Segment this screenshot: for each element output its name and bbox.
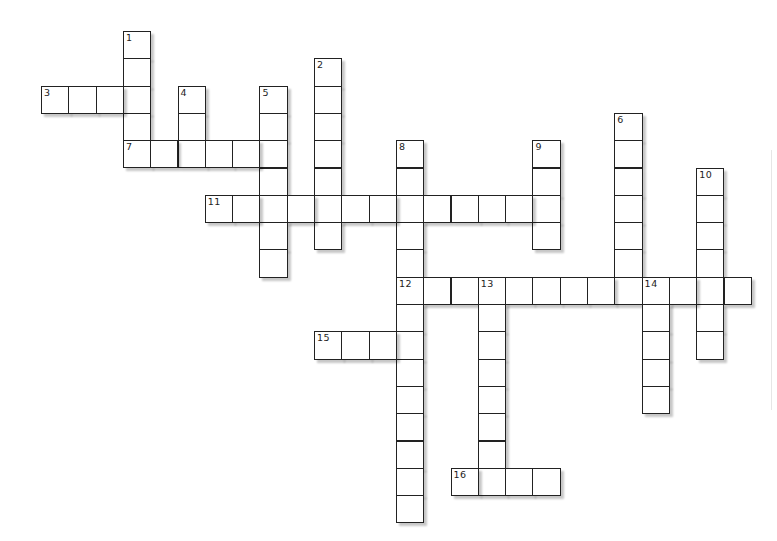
crossword-cell[interactable]: 16 (451, 468, 479, 496)
crossword-cell[interactable] (696, 222, 724, 250)
crossword-cell[interactable] (259, 140, 287, 168)
crossword-cell[interactable] (560, 277, 588, 305)
crossword-cell[interactable] (396, 413, 424, 441)
crossword-cell[interactable] (724, 277, 752, 305)
crossword-cell[interactable] (478, 413, 506, 441)
crossword-cell[interactable] (396, 441, 424, 469)
crossword-cell[interactable] (423, 277, 451, 305)
crossword-cell[interactable] (396, 304, 424, 332)
crossword-cell[interactable] (341, 195, 369, 223)
crossword-cell[interactable]: 10 (696, 168, 724, 196)
crossword-cell[interactable] (314, 113, 342, 141)
crossword-cell[interactable] (642, 331, 670, 359)
crossword-cell[interactable] (369, 331, 397, 359)
crossword-cell[interactable] (478, 386, 506, 414)
crossword-cell[interactable]: 11 (205, 195, 233, 223)
clue-number: 5 (262, 87, 269, 98)
crossword-cell[interactable] (478, 331, 506, 359)
crossword-cell[interactable] (532, 468, 560, 496)
crossword-cell[interactable]: 5 (259, 86, 287, 114)
crossword-cell[interactable] (259, 222, 287, 250)
crossword-cell[interactable] (341, 331, 369, 359)
clue-number: 11 (208, 196, 221, 207)
crossword-cell[interactable] (478, 441, 506, 469)
crossword-cell[interactable] (587, 277, 615, 305)
crossword-cell[interactable] (396, 331, 424, 359)
crossword-cell[interactable] (478, 195, 506, 223)
clue-number: 14 (645, 278, 658, 289)
crossword-cell[interactable] (396, 386, 424, 414)
crossword-cell[interactable] (232, 140, 260, 168)
crossword-cell[interactable] (123, 86, 151, 114)
crossword-cell[interactable]: 7 (123, 140, 151, 168)
crossword-cell[interactable] (150, 140, 178, 168)
crossword-cell[interactable] (614, 222, 642, 250)
crossword-cell[interactable] (314, 140, 342, 168)
crossword-cell[interactable] (96, 86, 124, 114)
clue-number: 12 (399, 278, 412, 289)
crossword-cell[interactable] (505, 195, 533, 223)
crossword-cell[interactable]: 14 (642, 277, 670, 305)
crossword-cell[interactable] (532, 222, 560, 250)
crossword-cell[interactable] (314, 168, 342, 196)
crossword-cell[interactable] (314, 86, 342, 114)
crossword-cell[interactable] (123, 113, 151, 141)
crossword-cell[interactable]: 15 (314, 331, 342, 359)
crossword-cell[interactable] (287, 195, 315, 223)
crossword-cell[interactable] (642, 386, 670, 414)
crossword-cell[interactable] (642, 359, 670, 387)
crossword-cell[interactable]: 4 (178, 86, 206, 114)
crossword-cell[interactable]: 3 (41, 86, 69, 114)
crossword-cell[interactable] (614, 140, 642, 168)
crossword-cell[interactable] (396, 168, 424, 196)
crossword-cell[interactable] (423, 195, 451, 223)
crossword-cell[interactable]: 2 (314, 58, 342, 86)
crossword-cell[interactable] (696, 249, 724, 277)
crossword-cell[interactable] (478, 304, 506, 332)
crossword-cell[interactable]: 13 (478, 277, 506, 305)
crossword-cell[interactable] (123, 58, 151, 86)
crossword-cell[interactable] (396, 359, 424, 387)
crossword-cell[interactable] (314, 222, 342, 250)
crossword-cell[interactable] (696, 304, 724, 332)
crossword-cell[interactable] (232, 195, 260, 223)
crossword-cell[interactable]: 9 (532, 140, 560, 168)
crossword-cell[interactable] (205, 140, 233, 168)
crossword-cell[interactable] (505, 468, 533, 496)
crossword-cell[interactable] (396, 222, 424, 250)
crossword-cell[interactable]: 1 (123, 31, 151, 59)
crossword-cell[interactable] (451, 277, 479, 305)
crossword-cell[interactable] (178, 140, 206, 168)
crossword-cell[interactable] (614, 168, 642, 196)
crossword-cell[interactable] (68, 86, 96, 114)
crossword-cell[interactable] (396, 249, 424, 277)
crossword-cell[interactable] (532, 168, 560, 196)
crossword-cell[interactable] (614, 277, 642, 305)
crossword-cell[interactable] (614, 195, 642, 223)
crossword-cell[interactable] (259, 195, 287, 223)
crossword-cell[interactable]: 8 (396, 140, 424, 168)
crossword-cell[interactable] (259, 249, 287, 277)
crossword-cell[interactable] (178, 113, 206, 141)
crossword-cell[interactable] (696, 277, 724, 305)
crossword-cell[interactable] (669, 277, 697, 305)
crossword-cell[interactable] (505, 277, 533, 305)
crossword-cell[interactable] (259, 168, 287, 196)
crossword-cell[interactable] (369, 195, 397, 223)
crossword-cell[interactable] (396, 495, 424, 523)
crossword-cell[interactable] (314, 195, 342, 223)
crossword-cell[interactable] (532, 195, 560, 223)
crossword-cell[interactable] (642, 304, 670, 332)
crossword-cell[interactable] (396, 468, 424, 496)
crossword-cell[interactable] (396, 195, 424, 223)
crossword-cell[interactable]: 12 (396, 277, 424, 305)
crossword-cell[interactable] (696, 331, 724, 359)
crossword-cell[interactable] (259, 113, 287, 141)
crossword-cell[interactable] (696, 195, 724, 223)
crossword-cell[interactable] (478, 468, 506, 496)
crossword-cell[interactable] (478, 359, 506, 387)
crossword-cell[interactable] (451, 195, 479, 223)
crossword-cell[interactable]: 6 (614, 113, 642, 141)
crossword-cell[interactable] (532, 277, 560, 305)
crossword-cell[interactable] (614, 249, 642, 277)
